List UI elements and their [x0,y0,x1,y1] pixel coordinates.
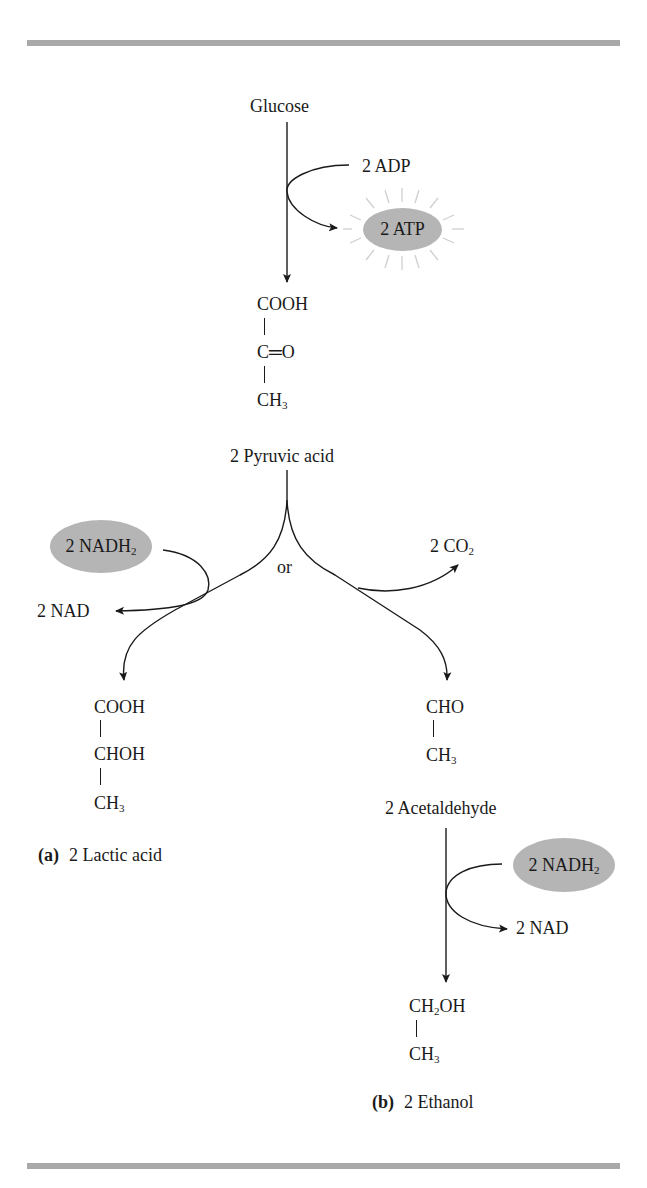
lactic-caption: (a)2 Lactic acid [38,845,162,865]
bond [433,720,434,737]
bond [100,720,101,737]
pathway-arrows [0,0,647,1188]
ethanol-caption: (b)2 Ethanol [372,1092,474,1112]
nadh2-label-left: 2 NADH2 [66,536,137,557]
nadh2-oval-left: 2 NADH2 [50,520,152,573]
atp-label: 2 ATP [380,219,425,240]
co2-label: 2 CO2 [430,536,474,556]
lactic-formula-line3: CH3 [94,793,125,813]
nadh-nad-curve-right [446,864,507,929]
pyruvate-formula-line3: CH3 [257,390,288,410]
caption-letter-b: (b) [372,1092,394,1112]
glucose-label: Glucose [250,96,309,116]
bond [416,1020,417,1037]
nad-label-right: 2 NAD [516,918,569,938]
caption-letter-a: (a) [38,845,59,865]
lactic-branch-arrow [123,500,287,680]
adp-atp-curve [287,165,349,228]
ethanol-formula-line1: CH2OH [409,996,466,1016]
acetaldehyde-name: 2 Acetaldehyde [385,798,496,818]
acetaldehyde-formula-line2: CH3 [426,745,457,765]
lactic-formula-line2: CHOH [94,744,145,764]
acetaldehyde-formula-line1: CHO [426,697,464,717]
ethanol-formula-line2: CH3 [409,1044,440,1064]
pyruvate-formula-line1: COOH [257,294,308,314]
bond [264,318,265,335]
adp-label: 2 ADP [362,156,411,176]
caption-text-b: 2 Ethanol [404,1092,474,1112]
caption-text-a: 2 Lactic acid [69,845,162,865]
nadh2-label-right: 2 NADH2 [529,855,600,876]
bond [264,366,265,383]
or-label: or [277,557,292,577]
lactic-formula-line1: COOH [94,697,145,717]
bond [100,768,101,785]
pyruvate-name: 2 Pyruvic acid [230,446,334,466]
pyruvate-formula-line2: C═O [257,342,295,362]
nad-label-left: 2 NAD [37,601,90,621]
nadh2-oval-right: 2 NADH2 [513,838,615,892]
co2-arrow [358,565,458,591]
atp-oval: 2 ATP [363,208,442,251]
